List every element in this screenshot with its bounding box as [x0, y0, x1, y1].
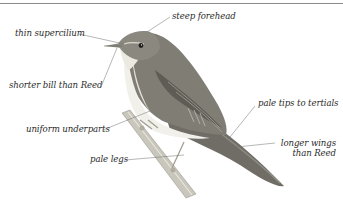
bird-body: [104, 31, 284, 186]
label-pale-tips-to-tertials: pale tips to tertials: [258, 98, 338, 108]
label-shorter-bill: shorter bill than Reed: [9, 80, 102, 90]
label-longer-wings-line2: than Reed: [270, 148, 336, 158]
leader-pale-tips: [230, 106, 255, 137]
leader-shorter-bill: [101, 48, 117, 87]
leader-thin-supercilium: [79, 34, 124, 44]
label-thin-supercilium: thin supercilium: [15, 28, 85, 38]
label-longer-wings: longer wings than Reed: [270, 138, 336, 158]
label-longer-wings-line1: longer wings: [270, 138, 336, 148]
label-pale-legs: pale legs: [90, 154, 128, 164]
label-uniform-underparts: uniform underparts: [26, 124, 110, 134]
label-steep-forehead: steep forehead: [172, 11, 236, 21]
leader-steep-forehead: [147, 17, 170, 32]
